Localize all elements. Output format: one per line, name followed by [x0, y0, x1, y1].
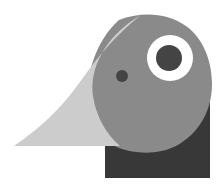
logo-canvas: [0, 0, 223, 187]
bird-eye-pupil: [156, 45, 182, 71]
toucan-logo-svg: [0, 0, 223, 187]
bird-nostril-dot: [116, 70, 128, 82]
